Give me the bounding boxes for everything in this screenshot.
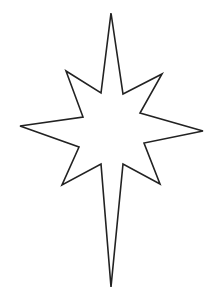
star-canvas (0, 0, 223, 307)
star-svg (0, 0, 223, 307)
star-outline-icon (20, 13, 203, 287)
